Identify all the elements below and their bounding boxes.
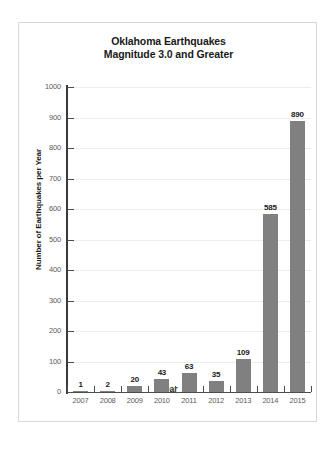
- gridline: [67, 148, 311, 149]
- bar-value-label: 109: [222, 348, 264, 357]
- y-axis-tick-label: 200: [21, 326, 61, 335]
- y-axis-tick: [67, 270, 74, 271]
- chart-title-line-1: Oklahoma Earthquakes: [19, 35, 318, 48]
- bar[interactable]: [236, 359, 251, 392]
- y-axis-tick: [67, 209, 74, 210]
- x-axis-tick: [284, 386, 285, 392]
- y-axis-tick-label: 900: [21, 113, 61, 122]
- plot-area: 01002003004005006007008009001000 1220436…: [67, 87, 311, 392]
- x-axis-baseline: [67, 392, 311, 393]
- bar-value-label: 890: [276, 110, 318, 119]
- y-axis-tick-label: 100: [21, 357, 61, 366]
- gridline: [67, 87, 311, 88]
- bar[interactable]: [154, 379, 169, 392]
- bar[interactable]: [127, 386, 142, 392]
- x-axis-tick: [203, 386, 204, 392]
- x-axis-tick: [311, 386, 312, 392]
- y-axis-tick: [67, 118, 74, 119]
- bar[interactable]: [263, 214, 278, 392]
- y-axis-tick: [67, 301, 74, 302]
- x-axis-tick: [257, 386, 258, 392]
- y-axis-tick-label: 700: [21, 174, 61, 183]
- y-axis-tick-label: 400: [21, 265, 61, 274]
- chart-figure: Oklahoma Earthquakes Magnitude 3.0 and G…: [18, 22, 317, 422]
- x-axis-category-label: 2015: [276, 396, 318, 405]
- bar[interactable]: [100, 391, 115, 392]
- gridline: [67, 118, 311, 119]
- y-axis-tick: [67, 392, 74, 393]
- y-axis-tick: [67, 362, 74, 363]
- y-axis-tick-label: 300: [21, 296, 61, 305]
- y-axis-tick: [67, 87, 74, 88]
- gridline: [67, 179, 311, 180]
- y-axis-tick: [67, 331, 74, 332]
- chart-title-line-2: Magnitude 3.0 and Greater: [19, 48, 318, 61]
- y-axis-tick-label: 800: [21, 143, 61, 152]
- y-axis-tick: [67, 148, 74, 149]
- bar-value-label: 585: [249, 203, 291, 212]
- y-axis-tick: [67, 179, 74, 180]
- y-axis-tick-label: 0: [21, 387, 61, 396]
- y-axis-tick-label: 1000: [21, 82, 61, 91]
- bar[interactable]: [209, 381, 224, 392]
- y-axis-tick-label: 500: [21, 235, 61, 244]
- x-axis-tick: [175, 386, 176, 392]
- x-axis-tick: [148, 386, 149, 392]
- chart-title: Oklahoma Earthquakes Magnitude 3.0 and G…: [19, 35, 318, 61]
- y-axis-tick-label: 600: [21, 204, 61, 213]
- bar[interactable]: [290, 121, 305, 392]
- bar-value-label: 35: [195, 370, 237, 379]
- y-axis-tick: [67, 240, 74, 241]
- bar[interactable]: [73, 391, 88, 392]
- x-axis-tick: [230, 386, 231, 392]
